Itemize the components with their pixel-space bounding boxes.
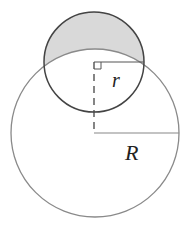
diagram-canvas (0, 0, 184, 228)
right-angle-marker (94, 62, 101, 69)
small-radius-label: r (112, 69, 120, 92)
large-radius-label: R (125, 140, 138, 166)
two-circle-diagram: r R (0, 0, 184, 228)
